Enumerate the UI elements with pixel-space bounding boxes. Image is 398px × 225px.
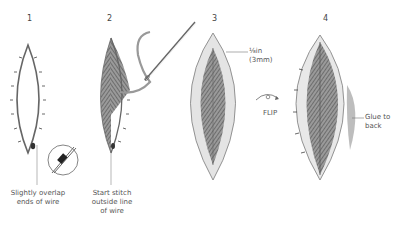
detail-magnifier <box>48 145 78 175</box>
caption-step-3-measurement: ⅛in (3mm) <box>249 47 273 65</box>
needle-and-thread <box>120 22 196 93</box>
step-4-glue-back <box>293 35 364 180</box>
glue-shaded-area <box>347 85 356 150</box>
step-number-2: 2 <box>107 14 112 23</box>
step-1-wire-leaf <box>10 45 78 185</box>
caption-line: outside line <box>84 198 140 207</box>
wire-overlap-knot <box>31 143 35 149</box>
caption-line: Glue to <box>365 113 390 122</box>
caption-step-2: Start stitch outside line of wire <box>84 189 140 216</box>
caption-line: of wire <box>84 207 140 216</box>
flip-label: FLIP <box>260 109 280 118</box>
caption-line: Start stitch <box>84 189 140 198</box>
caption-line: ends of wire <box>6 198 70 207</box>
caption-step-4-glue: Glue to back <box>365 113 390 131</box>
wire-tick-marks <box>10 57 46 142</box>
caption-line: back <box>365 122 390 131</box>
step-2-stitching <box>101 22 197 185</box>
wire-outline <box>17 45 39 153</box>
caption-step-1: Slightly overlap ends of wire <box>6 189 70 207</box>
caption-line: (3mm) <box>249 56 273 65</box>
caption-line: Slightly overlap <box>6 189 70 198</box>
caption-line: ⅛in <box>249 47 273 56</box>
step-number-1: 1 <box>27 14 32 23</box>
step-number-3: 3 <box>212 14 217 23</box>
step-number-4: 4 <box>323 14 328 23</box>
